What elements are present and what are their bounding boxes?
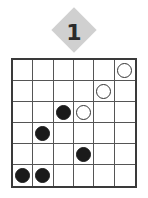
board-cell-r4-c0[interactable] xyxy=(13,144,33,165)
black-stone xyxy=(76,147,91,162)
puzzle-number: 1 xyxy=(53,18,95,48)
board-cell-r4-c5[interactable] xyxy=(115,144,135,165)
board-cell-r3-c1[interactable] xyxy=(33,123,53,144)
board-cell-r5-c0[interactable] xyxy=(13,165,33,186)
white-stone xyxy=(76,105,91,120)
black-stone xyxy=(35,126,50,141)
board-cell-r2-c1[interactable] xyxy=(33,102,53,123)
board-cell-r1-c0[interactable] xyxy=(13,81,33,102)
board-cell-r3-c0[interactable] xyxy=(13,123,33,144)
black-stone xyxy=(35,168,50,183)
board-cell-r1-c5[interactable] xyxy=(115,81,135,102)
board-cell-r5-c3[interactable] xyxy=(74,165,94,186)
board-cell-r3-c3[interactable] xyxy=(74,123,94,144)
board-cell-r5-c5[interactable] xyxy=(115,165,135,186)
board-cell-r1-c3[interactable] xyxy=(74,81,94,102)
white-stone xyxy=(96,84,111,99)
board-cell-r2-c0[interactable] xyxy=(13,102,33,123)
board-cell-r1-c4[interactable] xyxy=(94,81,114,102)
game-board[interactable] xyxy=(11,58,137,188)
board-cell-r5-c2[interactable] xyxy=(54,165,74,186)
board-cell-r4-c1[interactable] xyxy=(33,144,53,165)
board-cell-r0-c0[interactable] xyxy=(13,60,33,81)
board-cell-r0-c4[interactable] xyxy=(94,60,114,81)
board-cell-r2-c3[interactable] xyxy=(74,102,94,123)
board-cell-r2-c5[interactable] xyxy=(115,102,135,123)
board-cell-r3-c2[interactable] xyxy=(54,123,74,144)
board-cell-r5-c1[interactable] xyxy=(33,165,53,186)
board-cell-r2-c4[interactable] xyxy=(94,102,114,123)
board-cell-r4-c4[interactable] xyxy=(94,144,114,165)
black-stone xyxy=(15,168,30,183)
board-cell-r2-c2[interactable] xyxy=(54,102,74,123)
board-cell-r4-c2[interactable] xyxy=(54,144,74,165)
board-cell-r0-c5[interactable] xyxy=(115,60,135,81)
board-cell-r4-c3[interactable] xyxy=(74,144,94,165)
board-cell-r3-c5[interactable] xyxy=(115,123,135,144)
board-cell-r0-c2[interactable] xyxy=(54,60,74,81)
board-cell-r0-c3[interactable] xyxy=(74,60,94,81)
white-stone xyxy=(117,63,132,78)
board-cell-r1-c2[interactable] xyxy=(54,81,74,102)
black-stone xyxy=(56,105,71,120)
board-cell-r1-c1[interactable] xyxy=(33,81,53,102)
board-cell-r5-c4[interactable] xyxy=(94,165,114,186)
board-cell-r3-c4[interactable] xyxy=(94,123,114,144)
board-cell-r0-c1[interactable] xyxy=(33,60,53,81)
